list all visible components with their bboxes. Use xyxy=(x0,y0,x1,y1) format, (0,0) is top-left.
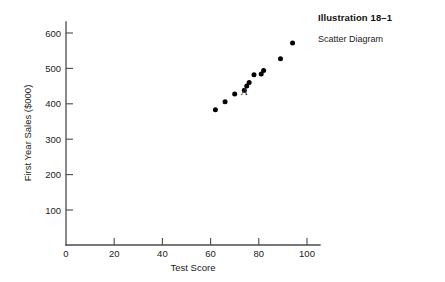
data-point xyxy=(251,72,256,77)
x-tick-label: 60 xyxy=(205,248,216,259)
data-point xyxy=(278,56,283,61)
x-tick-label: 0 xyxy=(63,248,68,259)
y-tick-label: 400 xyxy=(45,98,61,109)
x-axis-title: Test Score xyxy=(171,262,216,273)
data-point xyxy=(213,107,218,112)
point-annotation: A xyxy=(240,86,248,97)
y-tick-label: 100 xyxy=(45,205,61,216)
y-axis-ticks: 100200300400500600 xyxy=(45,28,73,216)
annotations-layer: A xyxy=(240,86,248,97)
y-axis-title: First Year Sales ($000) xyxy=(22,85,33,182)
data-point xyxy=(247,80,252,85)
y-tick-label: 600 xyxy=(45,28,61,39)
x-tick-label: 80 xyxy=(254,248,265,259)
x-axis-ticks: 020406080100 xyxy=(63,238,315,259)
scatter-plot-svg: 100200300400500600 020406080100 A Test S… xyxy=(0,0,445,282)
data-point xyxy=(290,40,295,45)
x-tick-label: 40 xyxy=(157,248,168,259)
data-point xyxy=(232,91,237,96)
scatter-chart: 100200300400500600 020406080100 A Test S… xyxy=(0,0,445,282)
data-point xyxy=(223,99,228,104)
x-tick-label: 100 xyxy=(299,248,315,259)
data-points-layer xyxy=(213,40,295,112)
y-tick-label: 500 xyxy=(45,63,61,74)
x-tick-label: 20 xyxy=(109,248,120,259)
data-point xyxy=(261,68,266,73)
y-tick-label: 200 xyxy=(45,169,61,180)
y-tick-label: 300 xyxy=(45,134,61,145)
